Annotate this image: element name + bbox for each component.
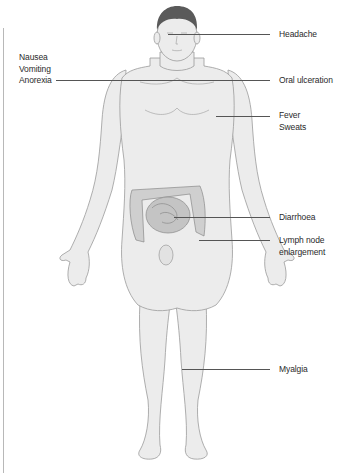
left-ear bbox=[154, 32, 160, 44]
label-headache: Headache bbox=[279, 29, 317, 41]
torso bbox=[120, 58, 234, 311]
label-myalgia: Myalgia bbox=[279, 364, 308, 376]
label-lymph-node-enlargement: Lymph node enlargement bbox=[279, 235, 325, 258]
lymph-node-leader bbox=[199, 240, 270, 241]
label-diarrhoea: Diarrhoea bbox=[279, 212, 315, 224]
label-fever-sweats: Fever Sweats bbox=[279, 110, 306, 133]
right-leg bbox=[176, 300, 207, 459]
left-leg bbox=[139, 300, 170, 459]
diarrhoea-leader bbox=[174, 217, 270, 218]
left-arm bbox=[60, 70, 126, 286]
label-oral-ulceration: Oral ulceration bbox=[279, 75, 333, 87]
oral-ulceration-leader bbox=[178, 80, 270, 81]
nausea-leader bbox=[56, 80, 178, 81]
myalgia-leader bbox=[182, 369, 270, 370]
label-nausea-vomiting-anorexia: Nausea Vomiting Anorexia bbox=[19, 52, 52, 87]
fever-leader bbox=[216, 116, 270, 117]
headache-leader bbox=[168, 34, 270, 35]
